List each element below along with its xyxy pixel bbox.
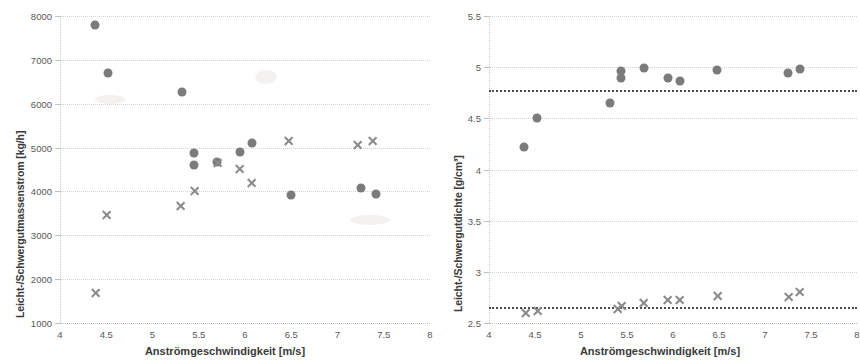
data-point-cross <box>712 291 723 302</box>
x-tick-label: 4.5 <box>528 329 541 340</box>
y-tick-label: 3 <box>476 266 481 277</box>
y-axis-label-right: Leicht-/Schwergutdichte [g/cm³] <box>452 155 464 312</box>
y-tick-label: 8000 <box>31 11 52 22</box>
y-tick-label: 1000 <box>31 318 52 329</box>
scan-artifact <box>350 215 390 225</box>
chart-panel-right: Leicht-/Schwergutdichte [g/cm³] 2.533.54… <box>430 0 859 363</box>
y-tick-label: 4 <box>476 164 481 175</box>
y-axis-spine <box>60 16 61 323</box>
x-tick-label: 5.5 <box>620 329 633 340</box>
data-point-cross <box>212 158 223 169</box>
y-tick-label: 2000 <box>31 274 52 285</box>
data-point-cross <box>616 300 627 311</box>
data-point-circle <box>190 161 199 170</box>
data-point-circle <box>713 66 722 75</box>
y-tick-label: 4.5 <box>468 113 481 124</box>
y-tick-label: 6000 <box>31 98 52 109</box>
data-point-circle <box>372 190 381 199</box>
x-tick-label: 8 <box>854 329 859 340</box>
y-gridline <box>489 221 857 222</box>
x-tick-label: 6 <box>670 329 675 340</box>
reference-line <box>489 90 857 92</box>
y-gridline <box>489 170 857 171</box>
y-gridline <box>60 104 430 105</box>
y-gridline <box>60 60 430 61</box>
reference-line <box>489 307 857 309</box>
y-gridline <box>489 16 857 17</box>
plot-area-right: 2.533.544.555.544.555.566.577.58 <box>489 16 857 323</box>
data-point-cross <box>283 136 294 147</box>
y-gridline <box>60 16 430 17</box>
x-tick-label: 4 <box>486 329 491 340</box>
y-tick-label: 3.5 <box>468 215 481 226</box>
y-tick-mark <box>484 323 489 324</box>
data-point-circle <box>606 98 615 107</box>
data-point-cross <box>367 136 378 147</box>
data-point-circle <box>664 74 673 83</box>
data-point-cross <box>175 200 186 211</box>
x-tick-label: 7.5 <box>804 329 817 340</box>
x-tick-label: 6.5 <box>712 329 725 340</box>
y-axis-spine <box>489 16 490 323</box>
x-tick-label: 5 <box>578 329 583 340</box>
y-tick-label: 3000 <box>31 230 52 241</box>
data-point-cross <box>662 295 673 306</box>
x-axis-label-right: Anströmgeschwindigkeit [m/s] <box>490 345 830 357</box>
data-point-circle <box>617 74 626 83</box>
data-point-cross <box>638 297 649 308</box>
data-point-circle <box>248 138 257 147</box>
data-point-cross <box>532 305 543 316</box>
chart-panel-left: Leicht-/Schwergutmassenstrom [kg/h] 1000… <box>0 0 430 363</box>
y-tick-mark <box>55 323 60 324</box>
plot-area-left: 1000200030004000500060007000800044.555.5… <box>60 16 430 323</box>
data-point-cross <box>234 163 245 174</box>
y-tick-label: 7000 <box>31 54 52 65</box>
data-point-circle <box>795 65 804 74</box>
data-point-cross <box>794 287 805 298</box>
data-point-cross <box>352 139 363 150</box>
data-point-cross <box>246 178 257 189</box>
scan-artifact <box>95 95 125 104</box>
y-tick-label: 5 <box>476 62 481 73</box>
data-point-cross <box>101 209 112 220</box>
x-tick-label: 6.5 <box>285 329 298 340</box>
data-point-circle <box>190 149 199 158</box>
x-tick-label: 7.5 <box>377 329 390 340</box>
y-tick-label: 4000 <box>31 186 52 197</box>
y-tick-label: 2.5 <box>468 318 481 329</box>
data-point-cross <box>90 287 101 298</box>
x-tick-label: 7 <box>335 329 340 340</box>
y-tick-label: 5.5 <box>468 11 481 22</box>
x-tick-label: 5.5 <box>192 329 205 340</box>
scan-artifact <box>255 70 277 84</box>
data-point-circle <box>236 148 245 157</box>
x-tick-label: 4.5 <box>100 329 113 340</box>
data-point-circle <box>519 142 528 151</box>
y-tick-label: 5000 <box>31 142 52 153</box>
y-gridline <box>60 235 430 236</box>
data-point-circle <box>356 183 365 192</box>
data-point-cross <box>783 292 794 303</box>
y-gridline <box>60 148 430 149</box>
data-point-circle <box>178 88 187 97</box>
data-point-circle <box>104 69 113 78</box>
y-gridline <box>489 272 857 273</box>
plot-background-left <box>60 16 430 323</box>
x-axis-label-left: Anströmgeschwindigkeit [m/s] <box>60 345 390 357</box>
y-gridline <box>489 118 857 119</box>
data-point-circle <box>91 21 100 30</box>
x-tick-label: 5 <box>150 329 155 340</box>
data-point-circle <box>532 114 541 123</box>
data-point-circle <box>287 190 296 199</box>
x-tick-label: 4 <box>57 329 62 340</box>
y-gridline <box>60 279 430 280</box>
data-point-circle <box>676 77 685 86</box>
x-tick-label: 7 <box>762 329 767 340</box>
y-axis-label-left: Leicht-/Schwergutmassenstrom [kg/h] <box>14 131 26 318</box>
data-point-cross <box>674 295 685 306</box>
data-point-circle <box>784 69 793 78</box>
y-gridline <box>489 323 857 324</box>
data-point-circle <box>639 64 648 73</box>
data-point-cross <box>520 307 531 318</box>
